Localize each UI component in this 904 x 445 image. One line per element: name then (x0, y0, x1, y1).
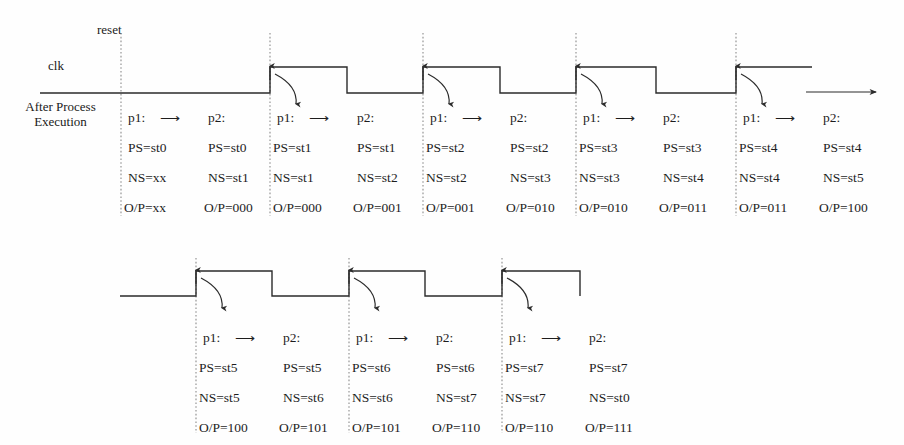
p2-next-state: NS=st5 (823, 170, 864, 185)
reset-label: reset (97, 22, 122, 37)
p2-present-state: PS=st0 (208, 140, 246, 155)
clk-waveform-row0 (40, 67, 812, 93)
after-process-label-line2: Execution (8, 114, 113, 129)
process-head-p2: p2: (663, 110, 680, 126)
process-head-p1: p1: (583, 110, 600, 126)
p1-next-state: NS=st6 (352, 390, 393, 405)
p1-present-state: PS=st4 (739, 140, 777, 155)
waveform-overlay (0, 0, 904, 445)
process-head-p1: p1: (128, 110, 145, 126)
process-head-p1: p1: (743, 110, 760, 126)
process-head-p1: p1: (430, 110, 447, 126)
p2-present-state: PS=st6 (436, 360, 474, 375)
p2-next-state: NS=st7 (436, 390, 477, 405)
p1-next-state: NS=st7 (505, 390, 546, 405)
p1-output: O/P=001 (426, 200, 475, 215)
trigger-curve-arrow (201, 278, 222, 308)
p1-next-state: NS=xx (128, 170, 166, 185)
p1-next-state: NS=st1 (273, 170, 314, 185)
p1-present-state: PS=st2 (426, 140, 464, 155)
p2-output: O/P=101 (279, 420, 328, 435)
p2-output: O/P=011 (659, 200, 707, 215)
process-head-p2: p2: (510, 110, 527, 126)
p1-next-state: NS=st4 (739, 170, 780, 185)
p2-output: O/P=100 (819, 200, 868, 215)
p2-output: O/P=110 (432, 420, 480, 435)
process-arrow-icon: ⟶ (462, 110, 482, 127)
p1-output: O/P=101 (352, 420, 401, 435)
p1-present-state: PS=st7 (505, 360, 543, 375)
p1-output: O/P=100 (199, 420, 248, 435)
p2-next-state: NS=st0 (589, 390, 630, 405)
p1-present-state: PS=st1 (273, 140, 311, 155)
p1-present-state: PS=st6 (352, 360, 390, 375)
process-head-p2: p2: (589, 330, 606, 346)
p1-present-state: PS=st0 (128, 140, 166, 155)
process-arrow-icon: ⟶ (160, 110, 180, 127)
process-arrow-icon: ⟶ (235, 330, 255, 347)
p1-output: O/P=011 (739, 200, 787, 215)
process-head-p2: p2: (357, 110, 374, 126)
p2-output: O/P=010 (506, 200, 555, 215)
p2-output: O/P=111 (585, 420, 633, 435)
p1-present-state: PS=st5 (199, 360, 237, 375)
process-arrow-icon: ⟶ (388, 330, 408, 347)
process-head-p2: p2: (208, 110, 225, 126)
p2-present-state: PS=st4 (823, 140, 861, 155)
p2-present-state: PS=st1 (357, 140, 395, 155)
p1-output: O/P=000 (273, 200, 322, 215)
trigger-curve-arrow (354, 278, 375, 308)
p2-next-state: NS=st2 (357, 170, 398, 185)
clk-waveform-row1 (120, 271, 580, 296)
p2-output: O/P=001 (353, 200, 402, 215)
p1-output: O/P=110 (505, 420, 553, 435)
trigger-curve-arrow (507, 278, 528, 308)
p1-output: O/P=xx (124, 200, 166, 215)
p2-present-state: PS=st3 (663, 140, 701, 155)
clk-label: clk (48, 58, 64, 73)
process-arrow-icon: ⟶ (541, 330, 561, 347)
process-head-p1: p1: (203, 330, 220, 346)
trigger-curve-arrow (741, 74, 762, 104)
after-process-label-line1: After Process (8, 99, 113, 114)
process-arrow-icon: ⟶ (309, 110, 329, 127)
p1-present-state: PS=st3 (579, 140, 617, 155)
process-head-p2: p2: (283, 330, 300, 346)
p2-present-state: PS=st7 (589, 360, 627, 375)
process-head-p1: p1: (356, 330, 373, 346)
process-head-p2: p2: (823, 110, 840, 126)
trigger-curve-arrow (428, 74, 449, 104)
trigger-curve-arrow (275, 74, 296, 104)
p1-next-state: NS=st5 (199, 390, 240, 405)
p2-next-state: NS=st4 (663, 170, 704, 185)
p1-output: O/P=010 (579, 200, 628, 215)
p2-next-state: NS=st1 (208, 170, 249, 185)
timing-diagram-canvas: reset clk After Process Execution (0, 0, 904, 445)
process-arrow-icon: ⟶ (775, 110, 795, 127)
p2-present-state: PS=st2 (510, 140, 548, 155)
trigger-curve-arrow (581, 74, 602, 104)
p2-next-state: NS=st6 (283, 390, 324, 405)
process-arrow-icon: ⟶ (615, 110, 635, 127)
p2-next-state: NS=st3 (510, 170, 551, 185)
p2-output: O/P=000 (204, 200, 253, 215)
process-head-p2: p2: (436, 330, 453, 346)
p1-next-state: NS=st3 (579, 170, 620, 185)
process-head-p1: p1: (509, 330, 526, 346)
p1-next-state: NS=st2 (426, 170, 467, 185)
process-head-p1: p1: (277, 110, 294, 126)
p2-present-state: PS=st5 (283, 360, 321, 375)
